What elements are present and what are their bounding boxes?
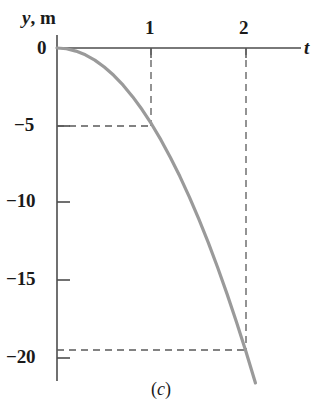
y-axis-label-separator: , (30, 7, 40, 28)
y-tick-label-minus-5: −5 (14, 115, 34, 134)
x-tick-label-2: 2 (239, 18, 248, 37)
caption-letter: c (157, 379, 165, 399)
x-tick-label-1: 1 (145, 18, 154, 37)
y-tick-label-minus-15: −15 (6, 269, 35, 288)
y-axis-label: y, m (22, 8, 56, 27)
y-axis-label-unit: m (40, 7, 56, 28)
plot-canvas (0, 0, 322, 413)
y-tick-label-minus-10: −10 (6, 191, 35, 210)
origin-label: 0 (37, 38, 46, 57)
figure-container: y, m t 0 1 2 −5 −10 −15 −20 (c) (0, 0, 322, 413)
figure-caption: (c) (0, 379, 322, 400)
x-axis-label: t (304, 38, 309, 57)
caption-close-paren: ) (165, 379, 171, 399)
position-curve (57, 48, 255, 383)
y-tick-label-minus-20: −20 (6, 347, 35, 366)
